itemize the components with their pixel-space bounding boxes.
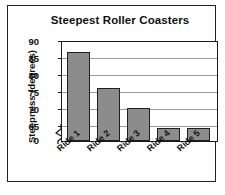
bar-ride-1 <box>67 52 90 141</box>
y-tick-label-0: 0 <box>17 136 39 146</box>
y-tick-label-65: 65 <box>17 122 39 132</box>
y-tick-label-90: 90 <box>17 37 39 47</box>
figure-border: Steepest Roller Coasters Steepness (degr… <box>7 5 216 182</box>
y-tick-label-80: 80 <box>17 71 39 81</box>
chart-title: Steepest Roller Coasters <box>30 14 210 26</box>
y-tick-label-70: 70 <box>17 105 39 115</box>
chart-figure: Steepest Roller Coasters Steepness (degr… <box>0 0 225 195</box>
y-tick-label-85: 85 <box>17 54 39 64</box>
y-tick-label-75: 75 <box>17 88 39 98</box>
